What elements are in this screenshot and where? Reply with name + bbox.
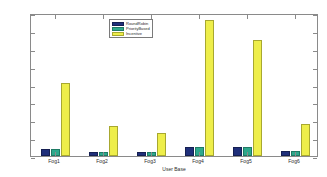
x-axis-tick-mark (55, 15, 56, 19)
y-axis-tick-mark (31, 33, 35, 34)
legend-label-prioritybased: PriorityBased (126, 27, 150, 31)
legend-swatch-roundrobin (112, 22, 124, 26)
legend-label-incentive: Incentive (126, 32, 142, 36)
x-axis-tick-mark (151, 152, 152, 156)
x-axis-tick-mark (247, 15, 248, 19)
legend-item-incentive: Incentive (112, 31, 150, 36)
bar-fog5-incentive (253, 40, 262, 156)
bar-fog3-incentive (157, 133, 166, 156)
x-axis-tick-mark (295, 15, 296, 19)
y-axis-tick-mark (313, 33, 317, 34)
bar-group (231, 15, 263, 156)
plot-area (30, 14, 318, 157)
bar-fog1-roundrobin (41, 149, 50, 156)
x-axis-tick-mark (247, 152, 248, 156)
y-axis-tick-mark (31, 122, 35, 123)
x-axis-tick-label: Fog2 (96, 159, 107, 164)
bar-group (39, 15, 71, 156)
y-axis-tick-mark (313, 140, 317, 141)
x-axis-tick-mark (199, 15, 200, 19)
y-axis-tick-mark (313, 87, 317, 88)
bar-group (183, 15, 215, 156)
x-axis-tick-label: Fog4 (192, 159, 203, 164)
legend-swatch-prioritybased (112, 27, 124, 31)
legend-swatch-incentive (112, 32, 124, 36)
x-axis-tick-mark (103, 15, 104, 19)
y-axis-tick-mark (31, 140, 35, 141)
bar-fog2-roundrobin (89, 152, 98, 156)
x-axis-tick-mark (295, 152, 296, 156)
y-axis-tick-mark (31, 104, 35, 105)
bar-fog6-roundrobin (281, 151, 290, 156)
y-axis-tick-mark (31, 87, 35, 88)
bar-fog4-roundrobin (185, 147, 194, 156)
x-axis-tick-label: Fog6 (288, 159, 299, 164)
y-axis-tick-mark (313, 158, 317, 159)
y-axis-tick-mark (313, 104, 317, 105)
y-axis-tick-mark (313, 51, 317, 52)
x-axis-tick-mark (55, 152, 56, 156)
y-axis-tick-mark (31, 15, 35, 16)
y-axis-tick-mark (31, 51, 35, 52)
y-axis-tick-mark (313, 15, 317, 16)
bar-fog6-incentive (301, 124, 310, 156)
y-axis-tick-mark (31, 158, 35, 159)
y-axis-tick-mark (31, 69, 35, 70)
y-axis-tick-mark (313, 122, 317, 123)
bars-layer (31, 15, 317, 156)
bar-fog4-incentive (205, 20, 214, 156)
bar-chart-figure: Processing Time (ms) User Base RoundRobi… (0, 0, 327, 177)
x-axis-tick-label: Fog1 (48, 159, 59, 164)
y-axis-tick-mark (313, 69, 317, 70)
bar-fog2-incentive (109, 126, 118, 156)
x-axis-tick-label: Fog3 (144, 159, 155, 164)
bar-fog1-incentive (61, 83, 70, 156)
x-axis-tick-mark (199, 152, 200, 156)
bar-fog5-roundrobin (233, 147, 242, 156)
x-axis-tick-label: Fog5 (240, 159, 251, 164)
legend-label-roundrobin: RoundRobin (126, 22, 148, 26)
x-axis-tick-mark (103, 152, 104, 156)
x-axis-label: User Base (162, 167, 185, 172)
bar-group (279, 15, 311, 156)
bar-fog3-roundrobin (137, 152, 146, 156)
chart-legend: RoundRobin PriorityBased Incentive (109, 19, 153, 38)
